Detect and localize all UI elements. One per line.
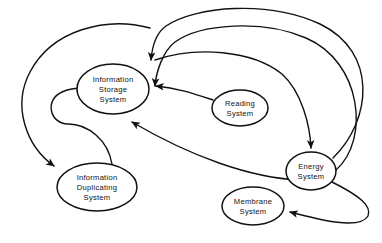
node-ellipse <box>212 90 268 126</box>
system-diagram: Information Storage System Reading Syste… <box>0 0 382 243</box>
node-label-line3: System <box>84 193 111 202</box>
node-label-line3: System <box>100 95 127 104</box>
node-label-line1: Membrane <box>234 197 272 206</box>
node-information-storage-system[interactable]: Information Storage System <box>77 64 149 114</box>
node-reading-system[interactable]: Reading System <box>212 90 268 126</box>
diagram-canvas: Information Storage System Reading Syste… <box>0 0 382 243</box>
node-membrane-system[interactable]: Membrane System <box>222 187 284 225</box>
node-label-line2: Storage <box>99 85 127 94</box>
node-information-duplicating-system[interactable]: Information Duplicating System <box>57 163 137 211</box>
node-label-line2: System <box>227 109 254 118</box>
node-energy-system[interactable]: Energy System <box>286 152 336 190</box>
node-label-line2: System <box>298 172 325 181</box>
node-label-line1: Information <box>77 173 118 182</box>
node-label-line2: Duplicating <box>77 183 117 192</box>
node-label-line1: Reading <box>225 99 255 108</box>
edge-duplicating-to-storage <box>132 122 300 180</box>
edge-reading-to-storage <box>156 86 213 100</box>
node-ellipse <box>286 152 336 190</box>
edge-energy-to-storage-upper <box>151 8 363 158</box>
node-label-line1: Energy <box>298 162 324 171</box>
node-label-line2: System <box>240 207 267 216</box>
node-ellipse <box>222 187 284 225</box>
node-label-line1: Information <box>93 75 134 84</box>
